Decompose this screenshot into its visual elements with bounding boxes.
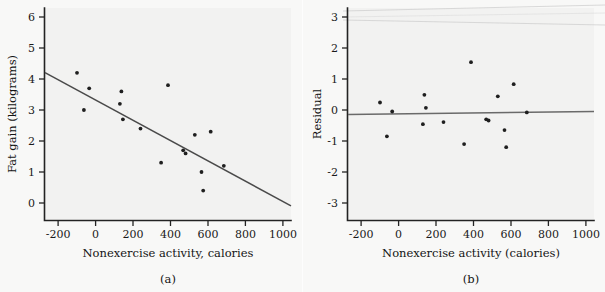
data-point [496,94,500,98]
x-tick-neg200: -200 [349,228,374,241]
two-panel-scatter-figure: 6 5 4 3 2 1 0 -200 0 200 [0,0,605,292]
y-tick-neg1: -1 [327,135,338,148]
x-tick-0: 0 [92,228,99,241]
data-point [421,122,425,126]
plot-area-background [45,8,291,219]
panel-b-ylabel: Residual [310,89,324,140]
x-tick-400: 400 [160,228,181,241]
y-tick-6: 6 [28,11,35,24]
data-point [525,111,529,115]
x-tick-600: 600 [501,228,522,241]
data-point [200,170,204,174]
x-tick-200: 200 [426,228,447,241]
panel-b-xlabel: Nonexercise activity (calories) [382,246,560,260]
data-point [423,93,427,97]
panel-a-ylabel: Fat gain (kilograms) [5,55,19,173]
panel-a-caption: (a) [160,272,176,286]
data-point [504,145,508,149]
x-tick-200: 200 [123,228,144,241]
data-point [378,101,382,105]
y-tick-3: 3 [28,104,35,117]
y-tick-neg2: -2 [327,166,338,179]
panel-a-svg: 6 5 4 3 2 1 0 -200 0 200 [0,0,302,292]
data-point [118,102,122,106]
x-tick-800: 800 [235,228,256,241]
y-tick-4: 4 [28,73,35,86]
data-point [209,130,213,134]
data-point [181,148,185,152]
data-point [193,133,197,137]
data-point [385,134,389,138]
data-point [442,120,446,124]
data-point [120,90,124,94]
x-tick-0: 0 [395,228,402,241]
y-tick-neg3: -3 [327,197,338,210]
x-tick-1000: 1000 [269,228,297,241]
data-point [469,60,473,64]
data-point [462,142,466,146]
data-point [139,127,143,131]
data-point [82,108,86,112]
panel-b-caption: (b) [463,272,479,286]
panel-b-svg: 3 2 1 0 -1 -2 -3 -200 0 200 [303,0,605,292]
y-tick-0: 0 [28,197,35,210]
data-point [390,110,394,114]
data-point [512,82,516,86]
y-tick-2: 2 [331,42,338,55]
data-point [503,128,507,132]
data-point [159,161,163,165]
y-tick-0: 0 [331,104,338,117]
data-point [222,164,226,168]
y-tick-2: 2 [28,135,35,148]
panel-b-residual-plot: 3 2 1 0 -1 -2 -3 -200 0 200 [303,0,605,292]
x-tick-1000: 1000 [572,228,600,241]
data-point [121,117,125,121]
y-tick-1: 1 [331,73,338,86]
data-point [424,106,428,110]
data-point [184,152,188,156]
data-point [87,86,91,90]
panel-a-scatterplot: 6 5 4 3 2 1 0 -200 0 200 [0,0,302,292]
x-tick-400: 400 [463,228,484,241]
data-point [487,119,491,123]
panel-a-xlabel: Nonexercise activity, calories [83,246,254,260]
y-tick-3: 3 [331,11,338,24]
data-point [166,83,170,87]
x-tick-600: 600 [198,228,219,241]
y-tick-5: 5 [28,42,35,55]
y-tick-1: 1 [28,166,35,179]
x-tick-neg200: -200 [46,228,71,241]
x-tick-800: 800 [538,228,559,241]
data-point [201,189,205,193]
data-point [75,71,79,75]
